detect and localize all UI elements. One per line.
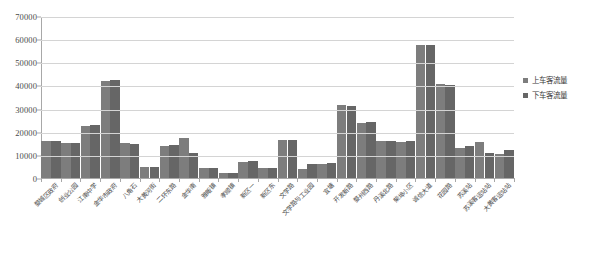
x-axis-tick bbox=[514, 178, 515, 182]
bar bbox=[376, 141, 385, 178]
bar bbox=[258, 168, 267, 178]
bar bbox=[248, 161, 257, 178]
x-axis-tick-label: 文学路 bbox=[278, 182, 296, 200]
x-axis-tick-label: 新区东 bbox=[258, 182, 276, 200]
bar bbox=[406, 141, 415, 178]
bar bbox=[140, 167, 149, 178]
y-axis-tick-label: 60000 bbox=[15, 36, 37, 45]
y-axis-tick-label: 40000 bbox=[15, 82, 37, 91]
x-axis-tick-label: 诚信大道 bbox=[411, 182, 433, 204]
bar bbox=[61, 143, 70, 178]
bar bbox=[504, 150, 513, 178]
bar bbox=[455, 148, 464, 178]
grid-line bbox=[41, 110, 514, 111]
plot-area bbox=[41, 17, 514, 179]
x-axis-labels: 婺城区政府创业公园江南中学金华市政府八角石大黄河街二环东路金华南雅畈镇孝顺镇新区… bbox=[41, 182, 514, 266]
x-axis-tick-label: 宜塘 bbox=[321, 182, 334, 195]
bar bbox=[298, 169, 307, 178]
bar bbox=[445, 85, 454, 178]
x-axis-tick-label: 新区一 bbox=[238, 182, 256, 200]
x-axis-tick-label: 开发新路 bbox=[332, 182, 354, 204]
bar bbox=[386, 141, 395, 178]
legend-swatch-icon bbox=[523, 78, 528, 83]
bar bbox=[71, 143, 80, 178]
grid-line bbox=[41, 156, 514, 157]
y-axis-tick-label: 50000 bbox=[15, 59, 37, 68]
bar bbox=[120, 143, 129, 178]
bar bbox=[278, 140, 287, 178]
x-axis-tick-label: 花园路 bbox=[435, 182, 453, 200]
legend-item[interactable]: 下车客流量 bbox=[523, 91, 595, 100]
bar bbox=[366, 122, 375, 178]
bar bbox=[426, 45, 435, 178]
x-axis-tick-label: 雅畈镇 bbox=[199, 182, 217, 200]
bar bbox=[150, 167, 159, 178]
legend-label: 下车客流量 bbox=[532, 91, 567, 100]
bar bbox=[327, 163, 336, 178]
bar bbox=[179, 138, 188, 178]
grid-line bbox=[41, 17, 514, 18]
bar bbox=[110, 80, 119, 178]
bar bbox=[169, 145, 178, 178]
bar bbox=[41, 141, 50, 178]
y-axis: 010000200003000040000500006000070000 bbox=[0, 17, 37, 179]
bar bbox=[436, 84, 445, 178]
legend-item[interactable]: 上车客流量 bbox=[523, 76, 595, 85]
bar bbox=[51, 141, 60, 178]
x-axis-tick-label: 创业公园 bbox=[57, 182, 79, 204]
x-axis-tick-label: 柴埠小区 bbox=[392, 182, 414, 204]
bar bbox=[475, 142, 484, 178]
grid-line bbox=[41, 63, 514, 64]
bar bbox=[317, 164, 326, 178]
x-axis-tick-label: 孝顺镇 bbox=[218, 182, 236, 200]
grid-line bbox=[41, 86, 514, 87]
x-axis-tick-label: 大黄河街 bbox=[135, 182, 157, 204]
x-axis-tick-label: 八角石 bbox=[120, 182, 138, 200]
bar bbox=[288, 140, 297, 178]
bar bbox=[347, 106, 356, 178]
bar-series-container bbox=[41, 17, 514, 179]
x-axis-tick-label: 婺州西路 bbox=[352, 182, 374, 204]
bar bbox=[337, 105, 346, 178]
x-axis-tick-label: 金华南 bbox=[179, 182, 197, 200]
bar bbox=[101, 81, 110, 178]
grid-line bbox=[41, 133, 514, 134]
chart-legend: 上车客流量下车客流量 bbox=[523, 76, 595, 106]
bar-chart: 010000200003000040000500006000070000 婺城区… bbox=[0, 0, 595, 266]
bar bbox=[465, 146, 474, 178]
legend-label: 上车客流量 bbox=[532, 76, 567, 85]
x-axis-tick-label: 二环东路 bbox=[155, 182, 177, 204]
bar bbox=[238, 162, 247, 178]
y-axis-tick-label: 10000 bbox=[15, 151, 37, 160]
bar bbox=[485, 153, 494, 178]
bar bbox=[396, 142, 405, 178]
bar bbox=[495, 154, 504, 178]
y-axis-tick-label: 20000 bbox=[15, 128, 37, 137]
bar bbox=[160, 146, 169, 178]
bar bbox=[81, 126, 90, 178]
bar bbox=[268, 168, 277, 178]
x-axis-tick-label: 婺城区政府 bbox=[33, 182, 59, 208]
bar bbox=[357, 123, 366, 178]
bar bbox=[199, 168, 208, 178]
bar bbox=[209, 168, 218, 178]
bar bbox=[307, 164, 316, 178]
legend-swatch-icon bbox=[523, 93, 528, 98]
y-axis-tick-label: 30000 bbox=[15, 105, 37, 114]
bar bbox=[416, 45, 425, 178]
bar bbox=[130, 144, 139, 178]
grid-line bbox=[41, 40, 514, 41]
y-axis-tick-label: 70000 bbox=[15, 13, 37, 22]
x-axis-tick-label: 丹溪北路 bbox=[372, 182, 394, 204]
